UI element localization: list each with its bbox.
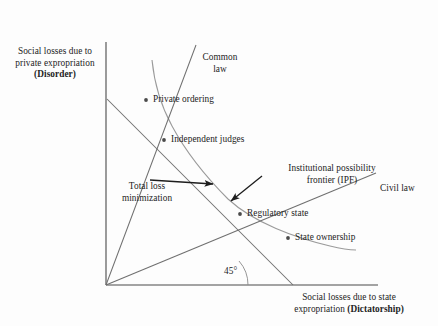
point-regulatory-state [238, 212, 242, 216]
ipf-curve [152, 60, 356, 250]
ipf-leader-arrow [231, 176, 262, 201]
common-law-line [106, 45, 196, 285]
forty-five-degree-label: 45° [224, 266, 237, 278]
ipf-label-line1: Institutional possibility [288, 163, 375, 173]
point-state-ownership [286, 236, 290, 240]
x-axis-title: Social losses due to state expropriation… [266, 292, 432, 315]
point-label-regulatory-state: Regulatory state [247, 208, 308, 220]
y-axis-title-emphasis: (Disorder) [34, 69, 76, 79]
y-axis-title-line2: private expropriation [15, 58, 94, 68]
point-private-ordering [144, 98, 148, 102]
point-label-independent-judges: Independent judges [171, 134, 244, 146]
point-label-state-ownership: State ownership [295, 232, 355, 244]
y-axis-title-line1: Social losses due to [18, 46, 92, 56]
x-axis-title-line1: Social losses due to state [302, 292, 396, 302]
y-axis-title: Social losses due to private expropriati… [8, 46, 102, 81]
ipf-diagram: Social losses due to private expropriati… [0, 0, 438, 326]
point-independent-judges [162, 138, 166, 142]
ipf-label-line2: frontier (IPF) [307, 175, 358, 185]
x-axis-title-line2-prefix: expropriation [294, 304, 347, 314]
total-loss-minimization-label: Total loss minimization [114, 181, 180, 204]
ipf-label: Institutional possibility frontier (IPF) [268, 163, 396, 186]
angle-arc [239, 261, 248, 285]
point-label-private-ordering: Private ordering [153, 94, 214, 106]
total-loss-label-line1: Total loss [129, 181, 165, 191]
x-axis-title-emphasis: (Dictatorship) [347, 304, 403, 314]
common-law-label: Common law [197, 52, 243, 75]
total-loss-label-line2: minimization [122, 193, 172, 203]
